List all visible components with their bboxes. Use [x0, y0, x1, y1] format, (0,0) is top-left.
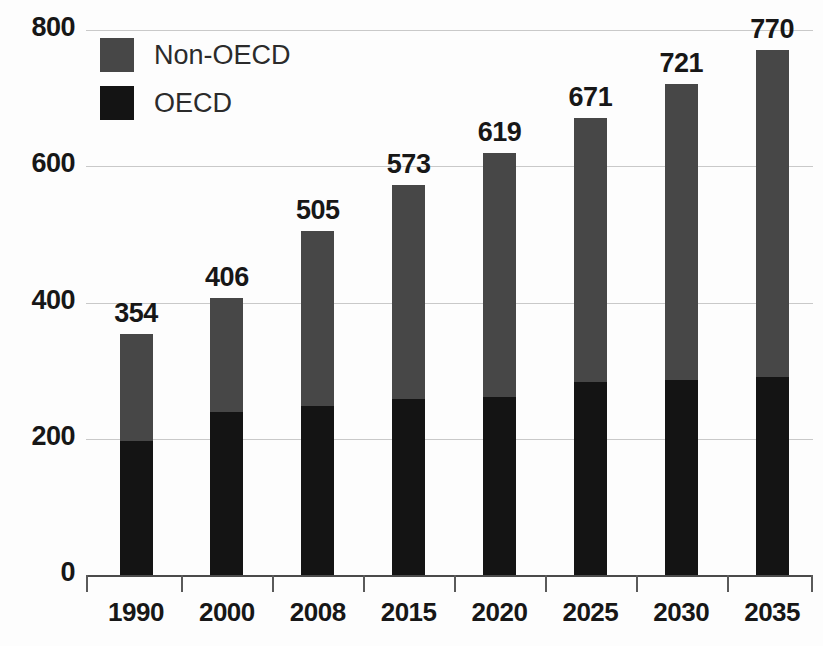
bar-group[interactable]	[665, 84, 698, 575]
bar-total-label: 770	[724, 14, 820, 45]
bar-segment-oecd[interactable]	[392, 399, 425, 575]
y-axis-tick-label: 600	[0, 148, 75, 179]
bar-segment-oecd[interactable]	[756, 377, 789, 575]
x-axis-tick-mark	[363, 575, 365, 592]
x-axis-tick-mark	[636, 575, 638, 592]
x-axis-tick-label: 2020	[455, 597, 545, 628]
x-axis-tick-mark	[811, 575, 813, 592]
stacked-bar-chart: 0200400600800 Non-OECDOECD 1990200020082…	[0, 0, 823, 646]
x-axis-tick-label: 2008	[273, 597, 363, 628]
bar-total-label: 573	[361, 149, 457, 180]
bar-segment-non-oecd[interactable]	[120, 334, 153, 441]
bar-segment-oecd[interactable]	[120, 441, 153, 575]
bar-group[interactable]	[756, 50, 789, 575]
bar-group[interactable]	[210, 298, 243, 575]
bar-segment-non-oecd[interactable]	[665, 84, 698, 380]
legend-label: Non-OECD	[154, 40, 291, 71]
bar-segment-oecd[interactable]	[301, 406, 334, 575]
x-axis-tick-mark	[545, 575, 547, 592]
bar-segment-non-oecd[interactable]	[210, 298, 243, 411]
x-axis-tick-label: 2035	[727, 597, 817, 628]
bar-total-label: 619	[452, 117, 548, 148]
bar-segment-non-oecd[interactable]	[574, 118, 607, 382]
x-axis-tick-label: 2030	[636, 597, 726, 628]
legend-label: OECD	[154, 88, 232, 119]
legend-swatch-icon	[100, 38, 134, 72]
x-axis-tick-mark	[272, 575, 274, 592]
y-axis-tick-label: 800	[0, 12, 75, 43]
x-axis-tick-mark	[454, 575, 456, 592]
bar-segment-oecd[interactable]	[483, 397, 516, 575]
bar-segment-non-oecd[interactable]	[756, 50, 789, 377]
bar-group[interactable]	[574, 118, 607, 575]
x-axis-tick-label: 2000	[182, 597, 272, 628]
bar-group[interactable]	[301, 231, 334, 575]
x-axis-tick-label: 2015	[364, 597, 454, 628]
bar-total-label: 406	[179, 262, 275, 293]
gridline	[86, 303, 813, 304]
x-axis-tick-label: 2025	[545, 597, 635, 628]
x-axis	[86, 575, 813, 595]
gridline	[86, 30, 813, 31]
x-axis-tick-mark	[181, 575, 183, 592]
chart-legend: Non-OECDOECD	[100, 38, 291, 134]
bar-group[interactable]	[483, 153, 516, 575]
bar-total-label: 721	[633, 48, 729, 79]
legend-item[interactable]: Non-OECD	[100, 38, 291, 72]
legend-item[interactable]: OECD	[100, 86, 291, 120]
bar-segment-non-oecd[interactable]	[483, 153, 516, 396]
legend-swatch-icon	[100, 86, 134, 120]
x-axis-tick-label: 1990	[91, 597, 181, 628]
bar-segment-oecd[interactable]	[210, 412, 243, 576]
bar-group[interactable]	[392, 185, 425, 575]
bar-group[interactable]	[120, 334, 153, 575]
bar-segment-oecd[interactable]	[574, 382, 607, 575]
bar-total-label: 671	[542, 82, 638, 113]
y-axis-tick-label: 200	[0, 421, 75, 452]
bar-segment-non-oecd[interactable]	[392, 185, 425, 400]
bar-segment-oecd[interactable]	[665, 380, 698, 575]
bar-total-label: 354	[88, 298, 184, 329]
bar-segment-non-oecd[interactable]	[301, 231, 334, 406]
x-axis-tick-mark	[727, 575, 729, 592]
y-axis-tick-label: 400	[0, 285, 75, 316]
bar-total-label: 505	[270, 195, 366, 226]
y-axis-tick-label: 0	[0, 557, 75, 588]
gridline	[86, 439, 813, 440]
x-axis-tick-mark	[86, 575, 88, 592]
